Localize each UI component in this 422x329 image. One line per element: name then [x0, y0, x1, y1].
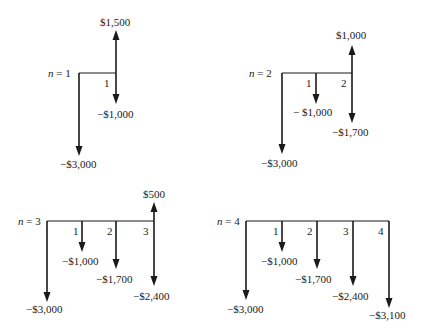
flow-label: −$1,700 [96, 273, 133, 285]
arrow-head-down-icon [350, 276, 357, 286]
period-label: 4 [378, 225, 384, 237]
flow-label: − $1,000 [293, 106, 333, 118]
n-label: n = 4 [217, 215, 240, 227]
cash-flow-diagram-n2: n = 2 1 2 −$3,000 − $1,000 −$1,700 $1,00… [249, 29, 369, 169]
flow-label: −$1,000 [261, 255, 298, 267]
arrow-head-down-icon [76, 146, 83, 156]
flow-label: −$1,000 [97, 108, 134, 120]
arrow-head-up-icon [151, 202, 158, 212]
period-label: 3 [143, 225, 149, 237]
arrow-head-down-icon [386, 298, 393, 308]
flow-label: $1,500 [100, 16, 131, 28]
flow-label: −$1,700 [295, 273, 332, 285]
n-label: n = 1 [48, 67, 71, 79]
period-label: 2 [341, 77, 347, 89]
flow-label: −$3,000 [26, 303, 63, 315]
flow-label: −$2,400 [133, 290, 170, 302]
arrow-head-down-icon [151, 276, 158, 286]
arrow-head-up-icon [349, 45, 356, 55]
period-label: 2 [107, 225, 113, 237]
arrow-head-down-icon [279, 242, 286, 252]
period-label: 2 [307, 225, 313, 237]
flow-label: −$1,700 [332, 126, 369, 138]
flow-label: $500 [143, 188, 166, 200]
flow-label: −$3,000 [60, 158, 97, 170]
flow-label: −$3,100 [369, 309, 406, 321]
n-label: n = 2 [249, 67, 272, 79]
cash-flow-diagram-n3: n = 3 1 2 3 −$3,000 −$1,000 −$1,700 −$2,… [18, 188, 170, 315]
arrow-head-down-icon [349, 113, 356, 123]
cash-flow-figure: n = 1 1 −$3,000 −$1,000 $1,500 n = 2 1 2… [0, 0, 422, 329]
flow-label: −$3,000 [261, 157, 298, 169]
arrow-head-down-icon [113, 94, 120, 104]
arrow-head-down-icon [313, 94, 320, 104]
flow-label: −$3,000 [227, 303, 264, 315]
n-label: n = 3 [18, 215, 41, 227]
flow-label: $1,000 [336, 29, 367, 41]
arrow-head-down-icon [79, 242, 86, 252]
arrow-head-down-icon [113, 259, 120, 269]
arrow-head-down-icon [243, 290, 250, 300]
period-label: 1 [273, 225, 279, 237]
arrow-head-up-icon [113, 30, 120, 40]
period-label: 1 [73, 225, 79, 237]
arrow-head-down-icon [279, 144, 286, 154]
cash-flow-diagram-n1: n = 1 1 −$3,000 −$1,000 $1,500 [48, 16, 134, 170]
period-label: 1 [104, 77, 110, 89]
flow-label: −$1,000 [62, 255, 99, 267]
arrow-head-down-icon [314, 259, 321, 269]
arrow-head-down-icon [44, 292, 51, 302]
flow-label: −$2,400 [332, 290, 369, 302]
period-label: 1 [306, 77, 312, 89]
period-label: 3 [343, 225, 349, 237]
cash-flow-diagram-n4: n = 4 1 2 3 4 −$3,000 −$1,000 −$1,700 −$… [217, 215, 406, 321]
